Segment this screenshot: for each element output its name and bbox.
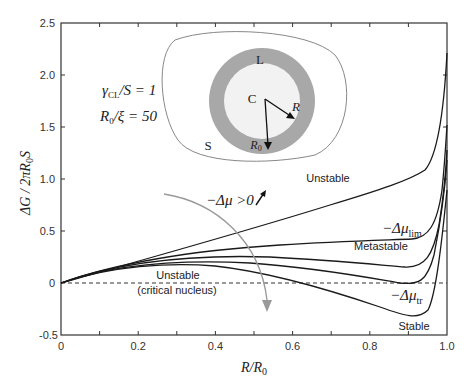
label-unstable-top: Unstable: [306, 172, 349, 184]
label-metastable: Metastable: [354, 240, 408, 252]
dmu-arrowhead: [260, 190, 266, 197]
y-tick-label: 1.5: [40, 121, 55, 133]
core-region: [224, 63, 300, 139]
inset-label-s: S: [204, 138, 211, 153]
param-r0-xi: R0/ξ = 50: [99, 108, 157, 126]
y-tick-label: 2.5: [40, 17, 55, 29]
label-mu-lim: −Δμlim: [382, 220, 422, 239]
inset-label-c: C: [248, 91, 257, 106]
param-gamma-ratio: γCL/S = 1: [102, 82, 156, 100]
y-tick-label: 0: [49, 277, 55, 289]
x-tick-label: 0.2: [131, 340, 146, 352]
x-tick-label: 0.6: [285, 340, 300, 352]
y-tick-label: 0.5: [40, 225, 55, 237]
inset-diagram: L C S R R0: [162, 32, 347, 162]
y-axis-label: ΔG / 2πR0S: [18, 151, 35, 216]
label-dmu-positive: −Δμ >0: [206, 192, 254, 208]
inset-label-l: L: [256, 52, 264, 67]
y-tick-label: 1.0: [40, 173, 55, 185]
x-tick-label: 0: [58, 340, 64, 352]
label-unstable-critical: Unstable: [156, 269, 199, 281]
inset-label-r: R: [291, 99, 300, 114]
chart-canvas: 2.5 2.0 1.5 1.0 0.5 0 -0.5 0 0.2 0.4 0.6…: [0, 0, 470, 386]
y-tick-label: 2.0: [40, 69, 55, 81]
x-axis-label: R/R0: [240, 360, 267, 377]
x-tick-label: 1.0: [439, 340, 454, 352]
gray-arrowhead: [262, 300, 272, 312]
y-tick-label: -0.5: [39, 329, 58, 341]
label-mu-tr: −Δμtr: [390, 287, 423, 306]
label-critical-nucleus: (critical nucleus): [137, 284, 216, 296]
label-stable: Stable: [398, 320, 429, 332]
x-tick-label: 0.8: [362, 340, 377, 352]
x-tick-label: 0.4: [208, 340, 223, 352]
